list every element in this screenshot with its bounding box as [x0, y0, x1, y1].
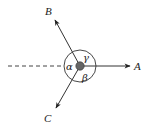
label-a: A [133, 60, 141, 72]
label-c: C [44, 112, 52, 124]
angle-alpha: α [66, 61, 73, 72]
label-b: B [45, 5, 52, 17]
vector-b [55, 20, 80, 66]
vector-c [56, 66, 80, 108]
angle-gamma: γ [83, 52, 89, 63]
angle-beta: β [81, 72, 88, 83]
center-point [76, 62, 84, 70]
vector-diagram: A B C α β γ [0, 0, 145, 129]
